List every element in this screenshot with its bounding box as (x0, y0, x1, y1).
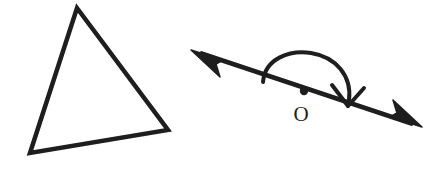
rotation-figure-group: O (191, 50, 422, 127)
geometry-figure-canvas: O (0, 0, 432, 187)
scalene-triangle (30, 8, 168, 153)
triangle-group (30, 8, 168, 153)
figure-svg: O (0, 0, 432, 187)
point-o-label: O (293, 102, 308, 126)
point-o-dot (300, 87, 308, 95)
